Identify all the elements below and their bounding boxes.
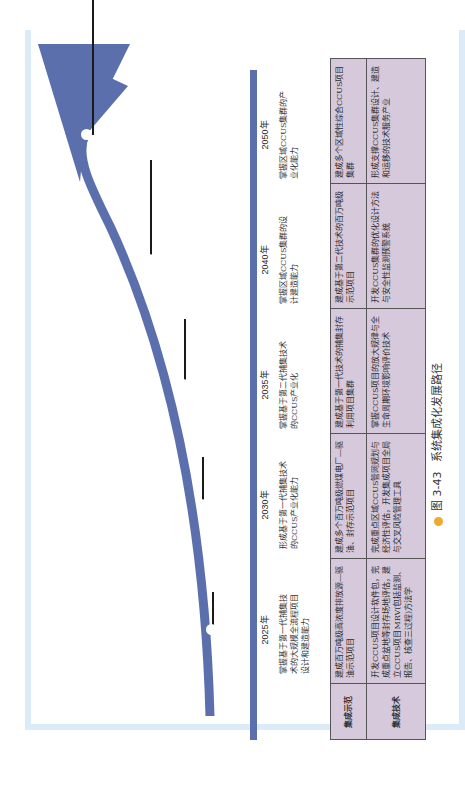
milestone-dot (144, 254, 155, 265)
milestone-goal: 掌握区域CCUS集群的设计建造能力 (278, 212, 300, 304)
milestone-connector (92, 0, 94, 135)
figure-caption: 图 3-43系统集成化发展路径 (428, 363, 444, 526)
caption-number: 图 3-43 (431, 472, 444, 511)
milestone-year: 2030年 (258, 475, 271, 535)
milestone-year: 2040年 (258, 230, 271, 290)
milestone-year: 2050年 (258, 105, 271, 165)
timeline-axis (250, 70, 257, 740)
table-cell: 开发CCUS项目设计软件包，完成重点盆地等封存场地评估，建立CCUS项目MRV(… (367, 559, 426, 684)
table-cell: 建成基于第一代技术的捕集封存利用项目集群 (331, 309, 367, 434)
milestone-dot (178, 379, 189, 390)
row-header: 集成技术 (367, 684, 426, 740)
table-cell: 掌握CCUS项目的放大规律与全生命周期环境影响评价技术 (367, 309, 426, 434)
milestone-goal: 掌握基于第二代捕集技术的CCUS产业化 (278, 337, 300, 429)
table-row-technology: 集成技术 开发CCUS项目设计软件包，完成重点盆地等封存场地评估，建立CCUS项… (367, 59, 426, 740)
milestone-year: 2035年 (258, 355, 271, 415)
caption-title: 系统集成化发展路径 (431, 363, 444, 462)
milestone-connector (184, 319, 186, 385)
milestone-year: 2025年 (258, 600, 271, 660)
table-cell: 建成多个百万吨级燃煤电厂—驱油、封存示范项目 (331, 434, 367, 559)
milestone-dot (206, 624, 217, 635)
milestone-dot (81, 129, 92, 140)
table-cell: 建成百万吨级高浓度排放源—驱油示范项目 (331, 559, 367, 684)
milestone-connector (202, 457, 204, 505)
roadmap-table: 集成示范 建成百万吨级高浓度排放源—驱油示范项目 建成多个百万吨级燃煤电厂—驱油… (330, 58, 426, 740)
milestone-goal: 掌握区域CCUS集群的产业化能力 (278, 87, 300, 179)
row-header: 集成示范 (331, 684, 367, 740)
table-row-demonstration: 集成示范 建成百万吨级高浓度排放源—驱油示范项目 建成多个百万吨级燃煤电厂—驱油… (331, 59, 367, 740)
milestone-connector (150, 160, 152, 260)
table-cell: 完成重点区域CCUS管网规划与经济性评估，开发集成项目全局与交叉风险管理工具 (367, 434, 426, 559)
milestone-dot (196, 499, 207, 510)
table-cell: 开发CCUS集群的优化设计方法与安全性监测预警系统 (367, 184, 426, 309)
milestone-goal: 掌握基于第一代捕集技术的大规模全流程项目设计和建造能力 (278, 588, 311, 674)
table-cell: 形成支撑CCUS集群设计、建造和运移的技术服务产业 (367, 59, 426, 184)
table-cell: 建成多个区域性综合CCUS项目集群 (331, 59, 367, 184)
milestone-goal: 形成基于第一代捕集技术的CCUS产业化能力 (278, 457, 300, 549)
table-cell: 建成基于第二代技术的百万吨级示范项目 (331, 184, 367, 309)
caption-bullet-icon (434, 517, 443, 526)
